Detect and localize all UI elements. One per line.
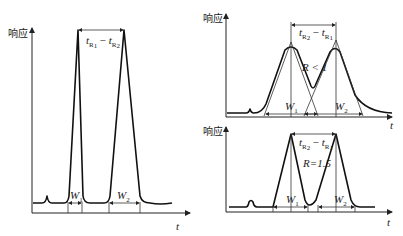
left-chromatogram-curve	[33, 30, 172, 204]
right-bottom-w1-label: W1	[286, 193, 299, 208]
right-bottom-x-axis-label: t	[387, 216, 391, 228]
chromatogram-diagram: 响应 t W1 W2 tR1−tR2 响应 t tR2−tR1	[0, 0, 403, 236]
right-top-w1-label: W1	[285, 100, 298, 115]
left-panel: 响应 t W1 W2 tR1−tR2	[8, 27, 190, 232]
left-y-axis-label: 响应	[8, 27, 28, 39]
right-top-spacing-label: tR2−tR1	[299, 26, 333, 42]
left-w1-label: W1	[70, 189, 83, 204]
right-bottom-panel: 响应 t tR2−tR1 R=1.5 W1 W2	[203, 125, 392, 228]
left-w2-label: W2	[117, 189, 130, 204]
right-top-resolution-label: R < 1	[301, 61, 327, 73]
right-top-w2-label: W2	[335, 100, 348, 115]
right-bottom-spacing-label: tR2−tR1	[299, 136, 333, 152]
right-bottom-resolution-label: R=1.5	[302, 157, 331, 169]
right-top-y-axis-label: 响应	[203, 12, 223, 24]
right-top-tangent-2a	[304, 40, 336, 116]
right-top-x-axis-label: t	[390, 119, 394, 131]
left-x-axis-label: t	[176, 220, 180, 232]
right-top-panel: 响应 t tR2−tR1 R < 1 W1 W2	[203, 12, 394, 131]
left-spacing-label: tR1−tR2	[86, 34, 120, 50]
right-top-tangent-1b	[291, 42, 318, 116]
right-bottom-y-axis-label: 响应	[203, 125, 223, 137]
